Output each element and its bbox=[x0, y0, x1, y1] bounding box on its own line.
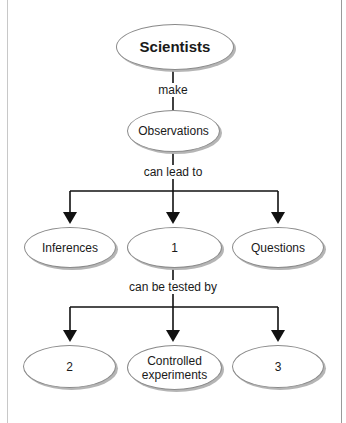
node-scientists: Scientists bbox=[116, 24, 234, 70]
node-controlled-experiments: Controlled experiments bbox=[127, 345, 222, 390]
link-label-make: make bbox=[157, 83, 188, 97]
node-blank-2: 2 bbox=[23, 345, 116, 388]
link-label-can-be-tested-by: can be tested by bbox=[128, 280, 218, 294]
node-observations: Observations bbox=[127, 110, 220, 152]
arrowhead-icon bbox=[63, 330, 77, 342]
arrowhead-icon bbox=[166, 212, 180, 224]
arrowhead-icon bbox=[63, 212, 77, 224]
arrowhead-icon bbox=[271, 212, 285, 224]
node-blank-3: 3 bbox=[232, 345, 324, 388]
node-blank-1: 1 bbox=[127, 227, 222, 268]
node-inferences: Inferences bbox=[24, 227, 116, 268]
link-label-can-lead-to: can lead to bbox=[143, 165, 204, 179]
arrowhead-icon bbox=[271, 330, 285, 342]
arrowhead-icon bbox=[166, 330, 180, 342]
node-questions: Questions bbox=[232, 227, 324, 268]
